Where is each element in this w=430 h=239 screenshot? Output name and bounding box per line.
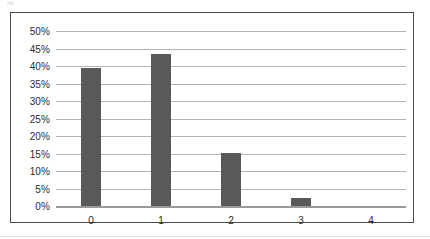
y-axis-tick-label: 15%: [30, 148, 50, 159]
x-axis-tick-label: 2: [228, 215, 234, 226]
scan-artifact-line: [0, 236, 430, 237]
x-axis-tick-label: 4: [368, 215, 374, 226]
scan-artifact-speck: [7, 1, 14, 5]
bar: [221, 153, 241, 206]
y-axis-tick-label: 45%: [30, 43, 50, 54]
gridline: [56, 31, 406, 32]
bar: [81, 68, 101, 206]
x-axis-tick-label: 0: [88, 215, 94, 226]
bar: [291, 198, 311, 206]
y-axis-tick-label: 20%: [30, 131, 50, 142]
gridline: [56, 66, 406, 67]
y-axis-tick-label: 30%: [30, 96, 50, 107]
gridline: [56, 119, 406, 120]
y-axis-tick-label: 25%: [30, 113, 50, 124]
y-axis-tick-label: 10%: [30, 166, 50, 177]
gridline: [56, 49, 406, 50]
gridline: [56, 101, 406, 102]
y-axis-tick-label: 40%: [30, 61, 50, 72]
chart-frame: 0%5%10%15%20%25%30%35%40%45%50%01234: [10, 12, 414, 223]
y-axis-tick-label: 5%: [35, 183, 50, 194]
y-axis-tick-label: 0%: [35, 201, 50, 212]
bar: [151, 54, 171, 206]
plot-area: 0%5%10%15%20%25%30%35%40%45%50%01234: [56, 31, 406, 206]
y-axis-tick-label: 35%: [30, 78, 50, 89]
y-axis-tick-label: 50%: [30, 26, 50, 37]
x-axis-tick-label: 3: [298, 215, 304, 226]
x-axis-tick-label: 1: [158, 215, 164, 226]
axis-baseline: [56, 206, 406, 208]
bar-chart-figure: 0%5%10%15%20%25%30%35%40%45%50%01234: [0, 0, 430, 239]
gridline: [56, 84, 406, 85]
gridline: [56, 136, 406, 137]
